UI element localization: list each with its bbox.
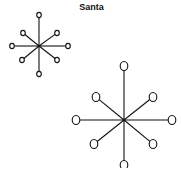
star-spoke xyxy=(124,100,150,120)
small-star xyxy=(10,12,71,76)
star-spoke xyxy=(124,120,150,141)
star-node-icon xyxy=(120,161,128,169)
star-hub-icon xyxy=(123,119,126,122)
large-star xyxy=(72,62,176,169)
diagram-canvas: Santa xyxy=(0,0,181,168)
star-node-icon xyxy=(149,93,157,102)
star-node-icon xyxy=(20,57,25,62)
star-node-icon xyxy=(168,116,176,125)
star-spoke xyxy=(25,35,39,46)
star-node-icon xyxy=(37,71,42,76)
star-node-icon xyxy=(66,43,71,48)
star-node-icon xyxy=(92,93,100,102)
star-node-icon xyxy=(120,62,128,71)
star-spoke xyxy=(39,46,55,59)
star-spoke xyxy=(99,100,124,120)
star-node-icon xyxy=(55,57,60,62)
stars-graphic xyxy=(0,0,181,168)
star-node-icon xyxy=(149,140,157,149)
star-spoke xyxy=(39,34,55,46)
star-node-icon xyxy=(55,30,60,35)
star-node-icon xyxy=(90,140,98,149)
star-node-icon xyxy=(37,12,42,17)
star-spoke xyxy=(24,46,39,58)
star-node-icon xyxy=(21,30,26,35)
star-spoke xyxy=(97,120,124,141)
star-hub-icon xyxy=(38,45,41,48)
star-node-icon xyxy=(72,116,80,125)
star-node-icon xyxy=(10,43,15,48)
